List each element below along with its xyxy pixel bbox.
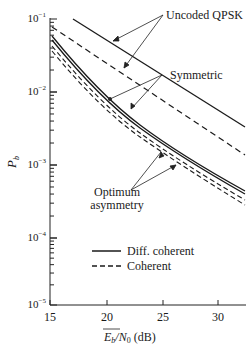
x-ticks: [50, 300, 218, 305]
chart-canvas: 10−1 10−2 10−3 10−4 10−5 15 20 25 30 Pb …: [0, 0, 252, 348]
legend-solid-label: Diff. coherent: [127, 244, 195, 258]
y-axis-title: Pb: [4, 156, 21, 169]
legend-dashed-label: Coherent: [127, 259, 172, 273]
y-tick-label: 10−2: [28, 84, 47, 97]
annotation-uncoded-qpsk: Uncoded QPSK: [166, 8, 243, 22]
y-tick-labels: 10−1 10−2 10−3 10−4 10−5: [28, 11, 47, 310]
annotation-symmetric: Symmetric: [170, 68, 223, 82]
y-tick-label: 10−5: [28, 297, 47, 310]
x-tick-labels: 15 20 25 30: [44, 310, 224, 324]
curve-optimum-diff-coherent: [52, 40, 245, 194]
curve-uncoded-coherent: [52, 27, 245, 155]
x-tick-label: 25: [157, 310, 169, 324]
annotation-optimum-line1: Optimum: [94, 185, 141, 199]
y-tick-label: 10−1: [28, 11, 47, 24]
x-axis-title: Eb/N0 (dB): [103, 329, 156, 345]
curves: [52, 19, 245, 205]
svg-text:Eb/N0 (dB): Eb/N0 (dB): [103, 330, 156, 345]
y-tick-label: 10−4: [28, 230, 47, 243]
x-tick-label: 30: [212, 310, 224, 324]
y-tick-label: 10−3: [28, 157, 47, 170]
annotation-optimum-line2: asymmetry: [90, 198, 143, 212]
x-tick-label: 20: [101, 310, 113, 324]
y-ticks: [50, 19, 57, 305]
x-tick-label: 15: [44, 310, 56, 324]
annotation-arrows: [108, 15, 176, 190]
legend: Diff. coherent Coherent: [92, 244, 195, 273]
